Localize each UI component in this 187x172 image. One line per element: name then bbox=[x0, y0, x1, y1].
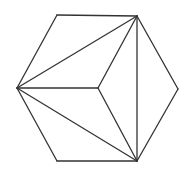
inner-center-bottomright bbox=[98, 88, 137, 161]
hex-edge-bottomleft-left bbox=[17, 88, 57, 161]
hex-edge-topleft-topright bbox=[57, 15, 137, 16]
inner-center-topright bbox=[98, 16, 137, 88]
hex-edge-topright-right bbox=[137, 16, 178, 89]
diagonal-left-bottomright bbox=[17, 88, 137, 161]
hexagon-diagram bbox=[0, 0, 187, 172]
hex-edge-right-bottomright bbox=[137, 89, 178, 161]
diagonal-left-topright bbox=[17, 16, 137, 88]
hex-edge-left-topleft bbox=[17, 15, 57, 88]
